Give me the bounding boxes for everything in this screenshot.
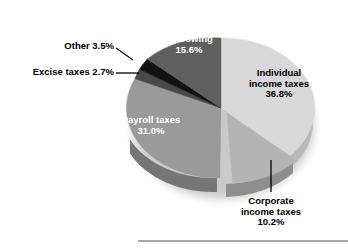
slice-label-corporate-line1: Corporate <box>248 195 293 206</box>
slice-label-corporate-income-taxes: Corporate income taxes 10.2% <box>228 196 314 228</box>
leader-line-other <box>116 48 133 60</box>
slice-label-individual-percent: 36.8% <box>236 89 322 100</box>
slice-label-borrowing-name: Borrowing <box>165 33 213 44</box>
slice-label-payroll-percent: 31.0% <box>112 126 190 137</box>
slice-label-borrowing-percent: 15.6% <box>152 45 226 56</box>
slice-label-payroll-taxes: Payroll taxes 31.0% <box>112 115 190 136</box>
slice-label-other: Other 3.5% <box>8 41 114 52</box>
pie-chart-figure: Borrowing 15.6% Individual income taxes … <box>0 0 348 251</box>
slice-label-payroll-name: Payroll taxes <box>122 114 181 125</box>
slice-label-individual-line1: Individual <box>257 67 301 78</box>
slice-label-corporate-percent: 10.2% <box>228 217 314 228</box>
slice-label-excise-taxes: Excise taxes 2.7% <box>2 67 114 78</box>
slice-label-borrowing: Borrowing 15.6% <box>152 34 226 55</box>
slice-label-individual-income-taxes: Individual income taxes 36.8% <box>236 68 322 100</box>
